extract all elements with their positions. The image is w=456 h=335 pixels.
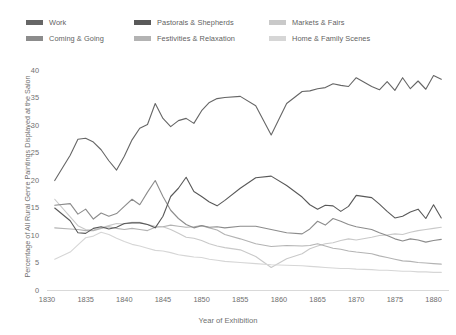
x-tick-1880: 1880 [425, 295, 441, 304]
y-axis-tick-labels: 0510152025303540 [31, 66, 39, 295]
series-line-coming-going [55, 181, 442, 243]
y-tick-5: 5 [35, 258, 39, 267]
series-lines [55, 76, 442, 273]
x-tick-1860: 1860 [271, 295, 287, 304]
x-tick-1875: 1875 [387, 295, 403, 304]
y-tick-40: 40 [31, 66, 39, 75]
x-axis-tick-labels: 1830183518401845185018551860186518701875… [39, 295, 442, 304]
x-tick-1835: 1835 [77, 295, 93, 304]
plot-area: 0510152025303540 18301835184018451850185… [0, 0, 456, 335]
x-tick-1845: 1845 [155, 295, 171, 304]
y-tick-10: 10 [31, 231, 39, 240]
series-line-festivities-relaxation [55, 225, 442, 264]
x-tick-1855: 1855 [232, 295, 248, 304]
x-axis-title: Year of Exhibition [0, 316, 456, 325]
y-tick-35: 35 [31, 93, 39, 102]
y-axis-title: Percentage of All Rural Genre Paintings … [23, 62, 32, 292]
series-line-work [55, 76, 442, 181]
y-tick-0: 0 [35, 286, 39, 295]
series-line-home-family-scenes [55, 232, 442, 272]
x-tick-1850: 1850 [193, 295, 209, 304]
y-tick-30: 30 [31, 121, 39, 130]
x-tick-1865: 1865 [309, 295, 325, 304]
y-tick-25: 25 [31, 148, 39, 157]
x-tick-1840: 1840 [116, 295, 132, 304]
y-tick-20: 20 [31, 176, 39, 185]
plot-svg: 0510152025303540 18301835184018451850185… [0, 0, 456, 335]
x-tick-1830: 1830 [39, 295, 55, 304]
y-tick-15: 15 [31, 203, 39, 212]
x-tick-1870: 1870 [348, 295, 364, 304]
line-chart: Work Pastorals & Shepherds Markets & Fai… [0, 0, 456, 335]
